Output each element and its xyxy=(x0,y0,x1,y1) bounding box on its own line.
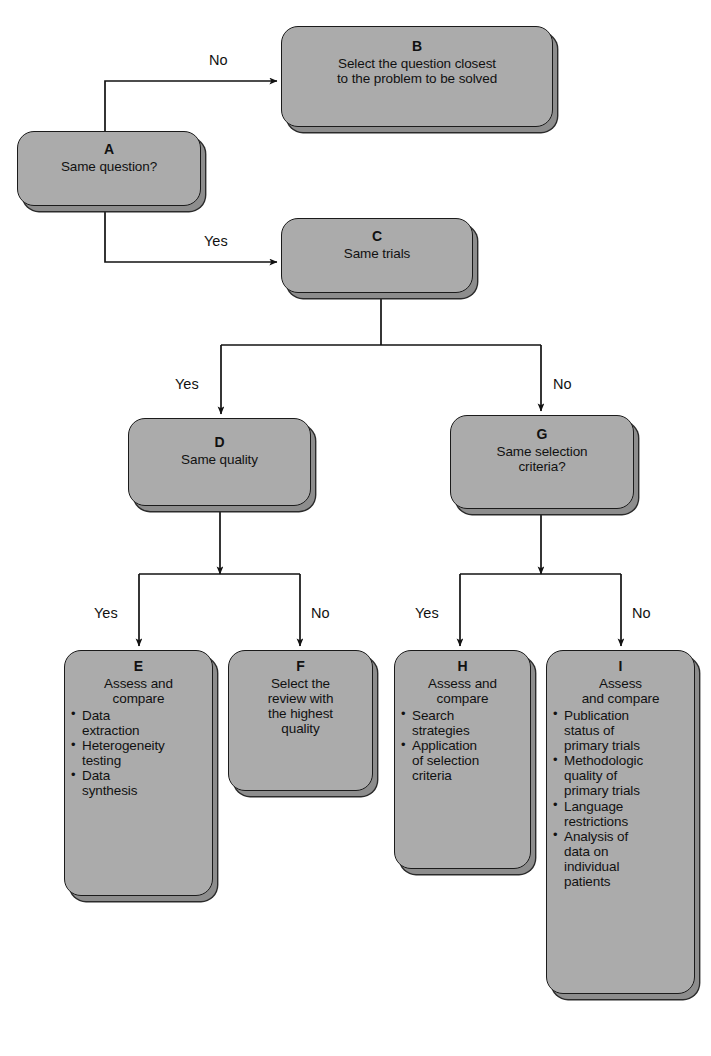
edge-label-c-yes: Yes xyxy=(175,376,199,392)
bullet-icon: • xyxy=(401,707,405,722)
list-item: • Search strategies xyxy=(401,708,524,738)
node-e-bullet-list: • Data extraction • Heterogeneity testin… xyxy=(71,708,206,799)
node-e-text: Assess and compare xyxy=(71,676,206,706)
node-d-same-quality[interactable]: D Same quality xyxy=(128,418,311,506)
bullet-icon: • xyxy=(553,798,557,813)
edge-label-g-yes: Yes xyxy=(415,605,439,621)
node-i-text: Assess and compare xyxy=(553,676,688,706)
node-c-text: Same trials xyxy=(288,246,466,261)
node-h-tag: H xyxy=(401,659,524,675)
edge-label-a-yes: Yes xyxy=(204,233,228,249)
node-b-text: Select the question closest to the probl… xyxy=(288,56,546,86)
edge-label-g-no: No xyxy=(632,605,651,621)
edge-a-to-c xyxy=(105,206,277,262)
edge-label-d-yes: Yes xyxy=(94,605,118,621)
edge-label-c-no: No xyxy=(553,376,572,392)
list-item: • Publication status of primary trials xyxy=(553,708,688,753)
bullet-icon: • xyxy=(553,753,557,768)
bullet-icon: • xyxy=(71,707,75,722)
list-item: • Language restrictions xyxy=(553,799,688,829)
bullet-icon: • xyxy=(71,738,75,753)
bullet-icon: • xyxy=(71,768,75,783)
list-item: • Data extraction xyxy=(71,708,206,738)
list-item: • Analysis of data on individual patient… xyxy=(553,829,688,889)
bullet-icon: • xyxy=(553,828,557,843)
edge-label-d-no: No xyxy=(311,605,330,621)
bullet-icon: • xyxy=(401,738,405,753)
node-g-same-selection-criteria[interactable]: G Same selection criteria? xyxy=(450,415,634,509)
node-h-text: Assess and compare xyxy=(401,676,524,706)
node-h-bullet-list: • Search strategies • Application of sel… xyxy=(401,708,524,784)
list-item: • Heterogeneity testing xyxy=(71,738,206,768)
bullet-icon: • xyxy=(553,707,557,722)
node-h-assess-and-compare[interactable]: H Assess and compare • Search strategies… xyxy=(394,650,531,869)
node-i-bullet-list: • Publication status of primary trials •… xyxy=(553,708,688,889)
node-e-tag: E xyxy=(71,659,206,675)
node-a-same-question[interactable]: A Same question? xyxy=(17,131,201,206)
node-f-text: Select the review with the highest quali… xyxy=(235,676,366,736)
node-i-tag: I xyxy=(553,659,688,675)
node-i-assess-and-compare[interactable]: I Assess and compare • Publication statu… xyxy=(546,650,695,994)
list-item: • Methodologic quality of primary trials xyxy=(553,753,688,798)
list-item: • Data synthesis xyxy=(71,768,206,798)
node-c-tag: C xyxy=(288,229,466,245)
node-e-assess-and-compare[interactable]: E Assess and compare • Data extraction •… xyxy=(64,650,213,896)
node-g-text: Same selection criteria? xyxy=(457,444,627,474)
node-g-tag: G xyxy=(457,427,627,443)
list-item: • Application of selection criteria xyxy=(401,738,524,783)
node-d-tag: D xyxy=(135,435,304,451)
node-a-tag: A xyxy=(24,142,194,158)
node-d-text: Same quality xyxy=(135,452,304,467)
flowchart-canvas: No Yes Yes No Yes No Yes No A Same quest… xyxy=(0,0,711,1056)
edge-label-a-no: No xyxy=(209,52,228,68)
node-b-tag: B xyxy=(288,39,546,55)
edge-a-to-b xyxy=(105,81,277,131)
node-b-select-question[interactable]: B Select the question closest to the pro… xyxy=(281,26,553,127)
node-c-same-trials[interactable]: C Same trials xyxy=(281,218,473,293)
node-a-text: Same question? xyxy=(24,159,194,174)
node-f-select-highest-quality-review[interactable]: F Select the review with the highest qua… xyxy=(228,650,373,791)
node-f-tag: F xyxy=(235,659,366,675)
